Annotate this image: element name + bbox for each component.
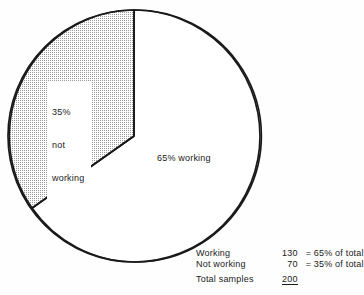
legend-value-total-cell: 200: [272, 274, 306, 285]
legend-value-not-working: 70: [272, 259, 306, 270]
slice-label-working-line1: 65% working: [157, 153, 211, 164]
slice-label-not-working-line3: working: [52, 173, 84, 184]
legend-row-not-working: Not working 70 = 35% of total: [196, 259, 364, 270]
slice-label-not-working-line1: 35%: [52, 107, 84, 118]
legend-value-working: 130: [272, 248, 306, 259]
legend-label-total: Total samples: [196, 274, 272, 285]
legend-label-working: Working: [196, 248, 272, 259]
legend-note-working: = 65% of total: [306, 248, 364, 259]
pie-chart-page: 35% not working 65% working Working 130 …: [0, 0, 364, 295]
legend-note-total: [306, 274, 364, 285]
legend-row-working: Working 130 = 65% of total: [196, 248, 364, 259]
slice-label-not-working-line2: not: [52, 140, 84, 151]
legend-summary: Working 130 = 65% of total Not working 7…: [196, 248, 364, 285]
legend-label-not-working: Not working: [196, 259, 272, 270]
legend-row-total: Total samples 200: [196, 274, 364, 285]
slice-label-working: 65% working: [157, 131, 211, 186]
legend-note-not-working: = 35% of total: [306, 259, 364, 270]
legend-value-total: 200: [282, 274, 298, 285]
slice-label-not-working: 35% not working: [47, 82, 91, 210]
legend-table: Working 130 = 65% of total Not working 7…: [196, 248, 364, 285]
